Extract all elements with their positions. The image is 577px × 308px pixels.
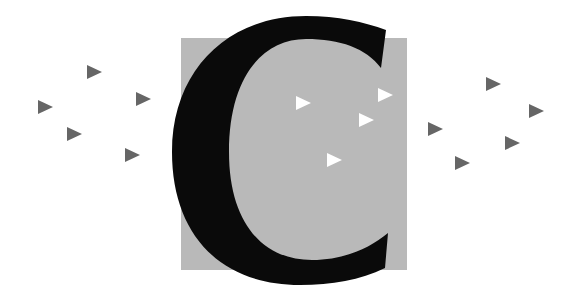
play-triangle-icon [87, 65, 102, 79]
left-triangle-cluster [38, 65, 151, 162]
play-triangle-icon [67, 127, 82, 141]
illustration-svg [0, 0, 577, 308]
play-triangle-icon [38, 100, 53, 114]
play-triangle-icon [455, 156, 470, 170]
play-triangle-icon [529, 104, 544, 118]
play-triangle-icon [505, 136, 520, 150]
play-triangle-icon [136, 92, 151, 106]
play-triangle-icon [428, 122, 443, 136]
letter-c-illustration [0, 0, 577, 308]
play-triangle-icon [486, 77, 501, 91]
right-triangle-cluster [428, 77, 544, 170]
play-triangle-icon [125, 148, 140, 162]
